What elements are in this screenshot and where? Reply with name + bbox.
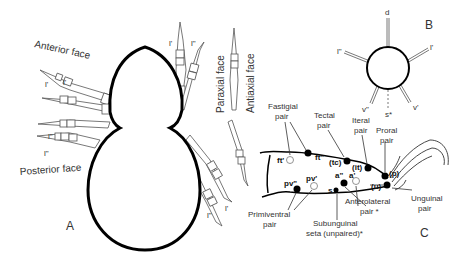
seta-l-prime-label: l' (45, 80, 49, 89)
seta-l-dprime-label: l" (48, 132, 53, 141)
seta-ft-prime-dot (287, 157, 294, 164)
label-line: Subunguinal (313, 219, 358, 228)
antiaxial-face-label: Antiaxial face (245, 53, 256, 113)
label-line: Primiventral (248, 210, 290, 219)
primiventral-pair-label: Primiventral pair (248, 210, 290, 229)
label-line: seta (unpaired)* (306, 229, 363, 238)
seta-u-dot (384, 182, 391, 189)
fastigial-pair-label: Fastigial pair (268, 102, 298, 121)
seta-l-prime-label: l' (169, 39, 173, 48)
seta-tc-dot (344, 158, 351, 165)
seta-l-prime-label: l' (430, 43, 434, 52)
label-line: Unguinal (411, 194, 443, 203)
leg-iii-left (38, 120, 110, 128)
leg-cross-section-circle (367, 47, 409, 89)
label-line: pair (275, 112, 289, 121)
panel-a-label: A (66, 219, 74, 233)
panel-b: d l" l' v" v' s* B (337, 8, 434, 119)
seta-it-dot (365, 165, 372, 172)
anterior-face-label: Anterior face (34, 38, 92, 61)
label-line: Tectal (314, 111, 335, 120)
seta-a-prime-label: a' (349, 171, 355, 180)
seta-tc-label: (tc) (329, 158, 342, 167)
seta-u-label: (u) (371, 182, 382, 191)
seta-s-label: s* (385, 110, 392, 119)
label-line: pair (263, 220, 277, 229)
iteral-pair-label: Iteral pair (352, 116, 370, 135)
seta-s-dot (334, 188, 339, 193)
seta-v-dprime-label: v" (362, 105, 369, 114)
subunguinal-seta-label: Subunguinal seta (unpaired)* (306, 219, 363, 238)
label-line: pair (354, 126, 368, 135)
seta-l-dprime-label: l" (337, 47, 342, 56)
seta-d-label: d (385, 8, 389, 17)
seta-a-dprime-label: a" (335, 171, 343, 180)
leg-iv-left (37, 133, 100, 148)
anterolateral-pair-label: Anterolateral pair * (345, 197, 391, 216)
seta-v-prime-label: v' (413, 103, 419, 112)
mite-leg-chaetotaxy-diagram: l' l' l" l" l' l" l" l' Anterior face Po… (0, 0, 468, 260)
seta-s-label: s (328, 186, 333, 195)
seta-pv-dprime-label: pv" (284, 179, 297, 188)
panel-c-label: C (420, 226, 429, 240)
label-line: Iteral (352, 116, 370, 125)
seta-l-prime-label: l' (63, 78, 67, 87)
label-line: pair * (360, 207, 379, 216)
unguinal-pair-label: Unguinal pair (411, 194, 443, 213)
posterior-face-label: Posterior face (19, 162, 82, 177)
seta-ft-dprime-dot (305, 150, 312, 157)
seta-l-prime-label: l' (225, 204, 229, 213)
seta-pv-prime-label: pv' (306, 174, 317, 183)
label-line: pair (317, 121, 331, 130)
label-line: pair (380, 136, 394, 145)
label-line: Anterolateral (345, 197, 391, 206)
label-line: pair (418, 204, 432, 213)
panel-c: ft' ft" (tc) (it) (p) (u) a" a' s pv" pv… (248, 102, 448, 240)
paraxial-face-label: Paraxial face (215, 55, 226, 113)
label-line: Proral (376, 126, 398, 135)
label-line: Fastigial (268, 102, 298, 111)
seta-p-dot (382, 173, 389, 180)
seta-p-label: (p) (389, 169, 400, 178)
claw (388, 140, 448, 190)
seta-l-dprime-label: l" (44, 149, 49, 158)
seta-l-dprime-label: l" (191, 39, 196, 48)
seta-ft-dprime-label: ft" (315, 153, 324, 162)
seta-l-dprime-label: l" (207, 211, 212, 220)
seta-ft-prime-label: ft' (277, 156, 284, 165)
isolated-leg-segment (230, 28, 238, 110)
panel-a: l' l' l" l" l' l" l" l' Anterior face Po… (19, 22, 256, 250)
proral-pair-label: Proral pair (376, 126, 398, 145)
seta-a-dprime-dot (341, 180, 348, 187)
tectal-pair-label: Tectal pair (314, 111, 335, 130)
seta-pv-prime-dot (311, 183, 318, 190)
isolated-leg-segment-lower (228, 120, 248, 186)
panel-b-label: B (425, 18, 433, 32)
